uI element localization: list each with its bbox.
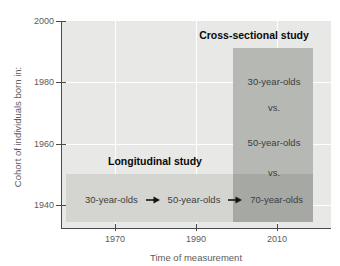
age-label: 30-year-olds xyxy=(248,76,301,88)
cross-sectional-title: Cross-sectional study xyxy=(199,29,309,41)
longitudinal-sequence: 30-year-olds 50-year-olds 70-year-olds xyxy=(85,193,303,206)
arrow-right-icon xyxy=(228,196,242,204)
x-tick-mark xyxy=(277,224,278,231)
x-tick-mark xyxy=(196,224,197,231)
longitudinal-title: Longitudinal study xyxy=(108,155,202,167)
y-tick-mark xyxy=(56,82,66,83)
y-tick-mark xyxy=(56,21,66,22)
age-label: 50-year-olds xyxy=(248,137,301,149)
age-label: 30-year-olds xyxy=(85,194,138,205)
y-tick-label: 1960 xyxy=(16,139,54,149)
y-tick-mark xyxy=(56,205,66,206)
y-tick-label: 1980 xyxy=(16,77,54,87)
vs-label: vs. xyxy=(268,102,280,114)
y-tick-mark xyxy=(56,144,66,145)
vs-label: vs. xyxy=(268,167,280,179)
y-tick-label: 1940 xyxy=(16,200,54,210)
age-label: 50-year-olds xyxy=(168,194,221,205)
x-tick-label: 1990 xyxy=(176,234,216,244)
plot-area: Cross-sectional study Longitudinal study… xyxy=(61,21,331,229)
x-tick-mark xyxy=(115,224,116,231)
x-tick-label: 1970 xyxy=(95,234,135,244)
study-design-figure: Cohort of individuals born in: Cross-sec… xyxy=(0,0,340,266)
age-label: 70-year-olds xyxy=(250,194,303,205)
x-axis-title: Time of measurement xyxy=(150,252,242,263)
y-tick-label: 2000 xyxy=(16,16,54,26)
x-tick-label: 2010 xyxy=(257,234,297,244)
arrow-right-icon xyxy=(146,196,160,204)
